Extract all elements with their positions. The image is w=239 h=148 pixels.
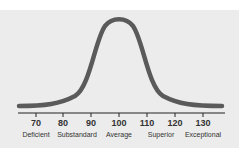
tick-label-90: 90 xyxy=(76,118,106,128)
bell-curve-chart: 70 80 90 100 110 120 130 Deficient Subst… xyxy=(0,0,239,148)
tick-label-130: 130 xyxy=(188,118,218,128)
tick-label-100: 100 xyxy=(104,118,134,128)
category-exceptional: Exceptional xyxy=(173,131,233,138)
bell-curve xyxy=(19,19,222,106)
tick-label-120: 120 xyxy=(160,118,190,128)
x-axis-ticks xyxy=(36,113,203,117)
tick-label-110: 110 xyxy=(132,118,162,128)
tick-label-80: 80 xyxy=(48,118,78,128)
tick-label-70: 70 xyxy=(21,118,51,128)
